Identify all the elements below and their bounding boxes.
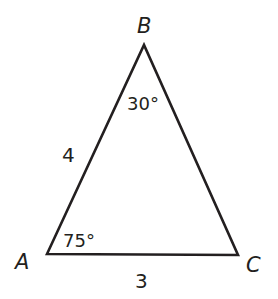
side-length-ac: 3: [135, 269, 148, 293]
side-length-ab: 4: [62, 143, 75, 167]
vertex-label-b: B: [137, 14, 151, 38]
triangle-diagram: B A C 4 3 30° 75°: [0, 0, 278, 299]
vertex-label-c: C: [246, 253, 261, 277]
vertex-label-a: A: [13, 250, 29, 274]
angle-label-b: 30°: [127, 93, 159, 114]
angle-label-a: 75°: [63, 230, 95, 251]
triangle-abc: [47, 45, 238, 255]
